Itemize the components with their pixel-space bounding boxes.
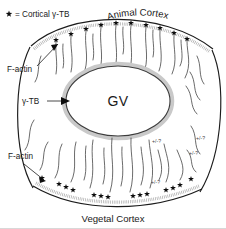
f-actin-label-top: F-actin: [7, 65, 32, 74]
actin-filament: [85, 31, 87, 70]
actin-filament: [177, 150, 183, 180]
actin-filament: [130, 25, 132, 68]
diagram-canvas: = Cortical γ-TB Animal Cortex F-actin γ-…: [0, 0, 226, 229]
actin-filament-short: [153, 30, 154, 57]
actin-filament: [145, 27, 147, 69]
cortical-gamma-tb-star: [144, 191, 150, 197]
animal-cortex-label: Animal Cortex: [106, 6, 170, 22]
animal-cortex-band: [34, 24, 210, 52]
actin-filament-short: [180, 40, 182, 66]
actin-filament-short: [40, 142, 48, 170]
actin-filament-short: [63, 44, 64, 68]
cortical-gamma-tb-star: [177, 182, 183, 188]
oocyte-cortex-diagram: = Cortical γ-TB Animal Cortex F-actin γ-…: [0, 0, 226, 229]
cortical-gamma-tb-star: [170, 185, 176, 191]
gamma-tb-label: γ-TB: [22, 97, 40, 106]
uncertainty-annotation: +/-?: [196, 135, 205, 141]
actin-filament-side: [35, 56, 41, 82]
cortical-gamma-tb-star: [56, 181, 62, 187]
cell-right-flank: [200, 50, 221, 192]
actin-filament: [110, 138, 113, 192]
actin-filament: [100, 27, 102, 69]
actin-filament-side: [190, 72, 200, 100]
gv-label: GV: [107, 93, 128, 109]
uncertainty-annotation: +/-?: [189, 150, 198, 156]
cortical-gamma-tb-star: [130, 193, 136, 199]
actin-filament: [185, 41, 189, 78]
f-actin-bottom-leader-line: [24, 164, 44, 180]
animal-cortex-star-group: [53, 20, 190, 43]
actin-filament: [130, 138, 133, 192]
actin-filament-short: [123, 27, 124, 54]
actin-filament-side: [197, 56, 204, 84]
legend-star-icon: [6, 11, 12, 17]
actin-filament: [159, 30, 161, 71]
animal-cortex-group: [31, 19, 213, 52]
cortical-gamma-tb-star: [70, 187, 76, 193]
cortical-gamma-tb-star: [91, 192, 97, 198]
actin-filament: [115, 25, 117, 68]
actin-filament: [71, 36, 72, 72]
actin-filament-short: [103, 148, 105, 184]
cortical-gamma-tb-star: [163, 187, 169, 193]
cortical-gamma-tb-star: [188, 176, 194, 182]
actin-filament-short: [121, 147, 123, 186]
cortical-gamma-tb-star: [98, 193, 104, 199]
actin-filament: [71, 142, 76, 182]
uncertainty-annotation: +/-?: [152, 138, 161, 144]
cortical-gamma-tb-star: [63, 184, 69, 190]
uncertainty-annotations: +/-?+/-?+/-?+/-?: [151, 135, 205, 185]
cortical-gamma-tb-star: [105, 194, 111, 200]
vegetal-cortex-group: [33, 183, 202, 207]
actin-filament-short: [84, 146, 86, 180]
actin-filament-short: [158, 150, 162, 180]
actin-filament: [90, 140, 93, 188]
cortical-gamma-tb-star: [137, 192, 143, 198]
legend-text: = Cortical γ-TB: [15, 10, 70, 19]
actin-filament-short: [141, 147, 143, 185]
uncertainty-annotation: +/-?: [151, 179, 160, 185]
cortical-gamma-tb-star: [6, 11, 12, 17]
f-actin-label-bottom: F-actin: [8, 152, 33, 161]
actin-filament-side: [25, 120, 34, 150]
actin-filament: [172, 35, 175, 74]
vegetal-cortex-label: Vegetal Cortex: [82, 213, 145, 224]
animal-cortex-outer-line: [31, 19, 213, 49]
actin-filament: [55, 144, 62, 178]
actin-filament: [164, 144, 169, 182]
actin-filament-short: [93, 34, 94, 60]
